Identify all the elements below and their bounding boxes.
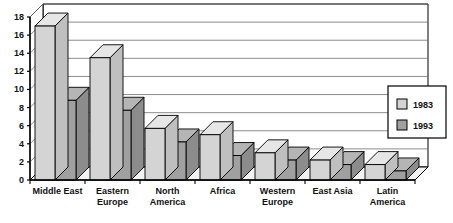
legend-swatch [397, 120, 407, 130]
legend-label: 1993 [413, 121, 433, 131]
y-tick-label: 8 [19, 103, 24, 113]
legend-swatch [397, 99, 407, 109]
bar-1983 [145, 115, 178, 180]
y-tick-label: 0 [19, 175, 24, 185]
y-tick-label: 10 [14, 84, 24, 94]
legend-label: 1983 [413, 100, 433, 110]
chart-canvas: 024681012141618 Middle EastEasternEurope… [0, 0, 453, 223]
category-label: WesternEurope [260, 186, 295, 207]
category-label: Middle East [32, 186, 82, 196]
y-tick-label: 18 [14, 12, 24, 22]
y-tick-label: 6 [19, 121, 24, 131]
category-label: Africa [210, 186, 237, 196]
bar-1983 [90, 45, 123, 180]
category-label: EasternEurope [96, 186, 129, 207]
chart-legend: 19831993 [388, 86, 446, 138]
bar-1983 [35, 13, 68, 180]
bar-group [310, 147, 364, 180]
category-label: East Asia [312, 186, 353, 196]
y-tick-label: 2 [19, 157, 24, 167]
y-tick-label: 16 [14, 30, 24, 40]
bar-1983 [200, 122, 233, 180]
bar-chart: 024681012141618 Middle EastEasternEurope… [0, 0, 453, 223]
y-tick-label: 4 [19, 139, 24, 149]
y-tick-label: 12 [14, 66, 24, 76]
y-tick-label: 14 [14, 48, 24, 58]
